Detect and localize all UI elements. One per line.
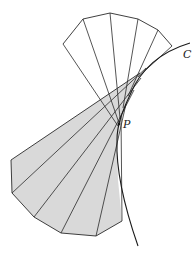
upper-fan-boundary	[63, 13, 172, 46]
point-p-marker	[118, 123, 121, 126]
curve-label-c: C	[183, 48, 192, 61]
shaded-fan-region	[11, 73, 140, 236]
point-label-p: P	[122, 118, 131, 131]
diagram-canvas: C P	[0, 0, 193, 254]
curve-c	[117, 43, 190, 246]
